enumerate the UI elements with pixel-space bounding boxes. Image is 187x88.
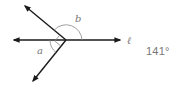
angle-b-label: b — [75, 13, 81, 24]
angle-diagram: b a ℓ — [0, 0, 187, 88]
angle-a-arc — [50, 40, 56, 53]
angle-b-arc — [54, 25, 82, 40]
line-l-label: ℓ — [127, 35, 131, 46]
answer-value: 141° — [146, 45, 170, 57]
angle-a-label: a — [37, 45, 43, 56]
